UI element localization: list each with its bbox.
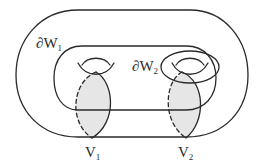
- label-V2: V2: [178, 145, 193, 162]
- label-V2-sub: 2: [189, 152, 194, 162]
- label-dW1: ∂W1: [36, 36, 62, 53]
- label-dW2-symbol: ∂W: [132, 58, 154, 74]
- handle-2-bottom: [172, 63, 208, 74]
- handle-1-top: [82, 58, 110, 65]
- label-V1-sub: 1: [96, 152, 101, 162]
- label-dW2-sub: 2: [154, 66, 159, 76]
- meridian-disk-2-fill: [169, 72, 201, 138]
- label-dW1-symbol: ∂W: [36, 35, 58, 51]
- label-V2-symbol: V: [178, 144, 189, 160]
- label-V1-symbol: V: [85, 144, 96, 160]
- diagram-canvas: [0, 0, 259, 166]
- label-dW1-sub: 1: [58, 43, 63, 53]
- label-dW2: ∂W2: [132, 59, 158, 76]
- label-V1: V1: [85, 145, 100, 162]
- handle-2-top: [176, 58, 204, 65]
